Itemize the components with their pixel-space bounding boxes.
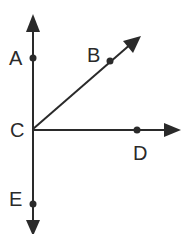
label-C: C	[10, 119, 24, 141]
label-E: E	[9, 188, 22, 210]
label-D: D	[133, 142, 147, 164]
point-B	[107, 58, 114, 65]
geometry-diagram: A B C D E	[0, 0, 184, 234]
point-E	[30, 201, 37, 208]
arrowhead-right-icon	[164, 123, 181, 137]
point-D	[134, 127, 141, 134]
ray-CB	[33, 43, 132, 129]
arrowhead-up-icon	[26, 14, 40, 32]
point-A	[30, 55, 37, 62]
label-A: A	[9, 47, 23, 69]
label-B: B	[87, 44, 100, 66]
arrowhead-down-icon	[26, 220, 40, 234]
arrowhead-upright-icon	[123, 36, 141, 53]
